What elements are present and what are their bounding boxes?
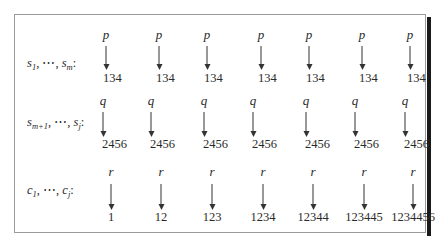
mapping-symbol: r [260, 164, 265, 180]
label-sub: m+1 [32, 121, 48, 131]
mapping-symbol: r [410, 164, 415, 180]
mapped-value: 2456 [404, 137, 429, 152]
mapping-symbol: q [201, 93, 208, 109]
mapped-value: 134 [204, 71, 223, 86]
down-arrow-icon [207, 46, 208, 65]
mapping-symbol: q [148, 93, 155, 109]
down-arrow-icon [103, 112, 104, 132]
mapping-symbol: p [103, 27, 110, 43]
mapping-symbol: p [359, 27, 366, 43]
down-arrow-icon [261, 46, 262, 65]
down-arrow-icon [362, 46, 363, 65]
label-ellipsis: ⋯ [54, 115, 67, 129]
mapped-value: 2456 [354, 137, 379, 152]
mapping-symbol: p [407, 27, 414, 43]
down-arrow-icon [313, 184, 314, 205]
mapped-value: 1234456 [391, 210, 435, 225]
label-ellipsis: ⋯ [43, 183, 56, 197]
down-arrow-icon [405, 112, 406, 132]
mapping-symbol: q [100, 93, 107, 109]
down-arrow-icon [111, 184, 112, 205]
mapped-value: 2456 [150, 137, 175, 152]
mapped-value: 134 [103, 71, 122, 86]
mapped-value: 134 [407, 71, 426, 86]
down-arrow-icon [410, 46, 411, 65]
mapped-value: 134 [306, 71, 325, 86]
label-ellipsis: ⋯ [42, 56, 55, 70]
down-arrow-icon [151, 112, 152, 132]
label-colon: : [70, 183, 73, 197]
mapped-value: 134 [359, 71, 378, 86]
mapped-value: 2456 [305, 137, 330, 152]
mapping-symbol: r [158, 164, 163, 180]
down-arrow-icon [309, 46, 310, 65]
mapped-value: 2456 [102, 137, 127, 152]
mapped-value: 1 [108, 210, 114, 225]
row-label-c1-cj: c1, ⋯, cj: [27, 182, 74, 199]
down-arrow-icon [306, 112, 307, 132]
mapping-symbol: p [258, 27, 265, 43]
mapping-symbol: r [209, 164, 214, 180]
row-label-s1-sm: s1, ⋯, sm: [27, 55, 76, 72]
mapping-symbol: p [156, 27, 163, 43]
mapped-value: 134 [258, 71, 277, 86]
mapping-symbol: q [352, 93, 359, 109]
mapping-symbol: p [204, 27, 211, 43]
mapped-value: 12 [155, 210, 168, 225]
down-arrow-icon [253, 112, 254, 132]
frame-shadow [427, 17, 431, 236]
mapping-symbol: q [402, 93, 409, 109]
down-arrow-icon [263, 184, 264, 205]
label-colon: : [73, 56, 76, 70]
mapping-symbol: q [250, 93, 257, 109]
mapped-value: 123 [203, 210, 222, 225]
row-label-sm1-sj: sm+1, ⋯, sj: [27, 114, 84, 131]
label-colon: : [81, 115, 84, 129]
down-arrow-icon [161, 184, 162, 205]
mapped-value: 123445 [345, 210, 383, 225]
down-arrow-icon [355, 112, 356, 132]
mapped-value: 134 [156, 71, 175, 86]
mapped-value: 12344 [297, 210, 328, 225]
down-arrow-icon [106, 46, 107, 65]
mapped-value: 2456 [203, 137, 228, 152]
down-arrow-icon [159, 46, 160, 65]
mapping-symbol: r [310, 164, 315, 180]
mapping-symbol: p [306, 27, 313, 43]
mapping-symbol: q [303, 93, 310, 109]
mapping-symbol: r [108, 164, 113, 180]
mapped-value: 2456 [252, 137, 277, 152]
down-arrow-icon [413, 184, 414, 205]
mapped-value: 1234 [251, 210, 276, 225]
down-arrow-icon [204, 112, 205, 132]
down-arrow-icon [364, 184, 365, 205]
mapping-symbol: r [361, 164, 366, 180]
down-arrow-icon [212, 184, 213, 205]
